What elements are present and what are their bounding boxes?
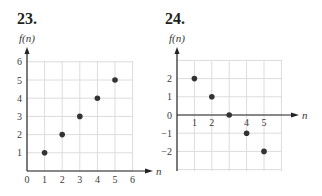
x-tick-label: 5 xyxy=(262,117,267,128)
data-point xyxy=(112,77,118,83)
x-tick-label: 0 xyxy=(25,174,30,185)
data-point xyxy=(209,94,215,100)
y-tick-label: 2 xyxy=(167,73,172,84)
chart-24: f(n)n1245210−1−2 xyxy=(161,32,308,171)
y-tick-label: 1 xyxy=(167,91,172,102)
x-tick-label: 1 xyxy=(192,117,197,128)
x-tick-label: 2 xyxy=(60,174,65,185)
y-tick-label: 6 xyxy=(17,56,22,67)
data-point xyxy=(244,130,250,136)
data-point xyxy=(42,150,48,156)
x-tick-label: 3 xyxy=(77,174,82,185)
y-axis-label: f(n) xyxy=(19,32,35,45)
data-point xyxy=(261,149,267,155)
charts-canvas: f(n)n0123456123456 f(n)n1245210−1−2 xyxy=(0,0,322,196)
y-tick-label: −2 xyxy=(161,146,172,157)
x-tick-label: 2 xyxy=(209,117,214,128)
y-tick-label: 2 xyxy=(17,129,22,140)
x-axis-arrow-icon xyxy=(291,113,299,118)
x-tick-label: 4 xyxy=(95,174,100,185)
data-point xyxy=(192,76,198,82)
x-tick-label: 6 xyxy=(130,174,135,185)
x-tick-label: 1 xyxy=(42,174,47,185)
y-axis-arrow-icon xyxy=(25,47,30,54)
y-tick-label: 0 xyxy=(167,110,172,121)
y-axis-arrow-icon xyxy=(175,47,180,54)
y-axis-label: f(n) xyxy=(169,32,185,45)
chart-23: f(n)n0123456123456 xyxy=(17,32,162,185)
x-tick-label: 4 xyxy=(244,117,249,128)
x-axis-label: n xyxy=(302,109,308,121)
data-point xyxy=(59,132,65,138)
data-point xyxy=(226,112,232,118)
x-axis-label: n xyxy=(156,165,162,177)
y-tick-label: 5 xyxy=(17,75,22,86)
y-tick-label: 3 xyxy=(17,111,22,122)
y-tick-label: 4 xyxy=(17,93,22,104)
data-point xyxy=(77,114,83,120)
x-tick-label: 5 xyxy=(113,174,118,185)
data-point xyxy=(95,95,101,101)
y-tick-label: 1 xyxy=(17,147,22,158)
x-axis-arrow-icon xyxy=(145,169,153,174)
y-tick-label: −1 xyxy=(161,128,172,139)
